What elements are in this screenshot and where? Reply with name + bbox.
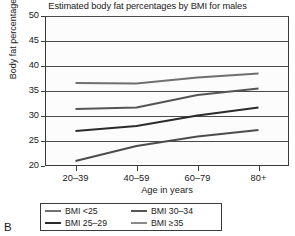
legend-label: BMI <25: [65, 207, 98, 216]
x-tick-mark: [137, 166, 138, 171]
series-line: [76, 108, 259, 132]
legend-swatch-icon: [45, 210, 61, 212]
legend-label: BMI 25–29: [65, 219, 107, 228]
x-tick-mark: [259, 166, 260, 171]
legend-label: BMI ≥35: [151, 219, 183, 228]
x-tick-label: 80+: [251, 173, 267, 183]
x-tick-label: 40–59: [124, 173, 150, 183]
legend-label: BMI 30–34: [151, 207, 193, 216]
y-tick-label: 20: [29, 161, 39, 170]
y-tick-label: 50: [29, 11, 39, 20]
x-tick-label: 60–79: [185, 173, 211, 183]
panel-letter: B: [4, 221, 12, 233]
series-line: [76, 89, 259, 110]
y-tick-mark: [41, 166, 45, 167]
legend-item: BMI 25–29: [45, 219, 131, 228]
legend-item: BMI ≥35: [131, 219, 217, 228]
x-tick-label: 20–39: [63, 173, 89, 183]
x-tick-mark: [76, 166, 77, 171]
y-tick-label: 35: [29, 86, 39, 95]
y-tick-label: 40: [29, 61, 39, 70]
legend-swatch-icon: [131, 210, 147, 212]
legend-swatch-icon: [131, 222, 147, 224]
chart-legend: BMI <25BMI 30–34BMI 25–29BMI ≥35: [40, 203, 222, 231]
y-tick-label: 25: [29, 136, 39, 145]
figure-panel: Estimated body fat percentages by BMI fo…: [0, 0, 295, 236]
data-series-layer: [45, 16, 289, 166]
x-axis-title: Age in years: [45, 185, 289, 195]
x-tick-mark: [198, 166, 199, 171]
legend-item: BMI <25: [45, 207, 131, 216]
plot-area: 20253035404550 20–3940–5960–7980+: [45, 16, 289, 166]
series-line: [76, 74, 259, 84]
legend-swatch-icon: [45, 222, 61, 224]
y-tick-label: 30: [29, 111, 39, 120]
legend-item: BMI 30–34: [131, 207, 217, 216]
chart-title: Estimated body fat percentages by BMI fo…: [0, 1, 295, 11]
series-line: [76, 130, 259, 161]
y-tick-label: 45: [29, 36, 39, 45]
y-axis-title: Body fat percentage: [8, 0, 18, 112]
